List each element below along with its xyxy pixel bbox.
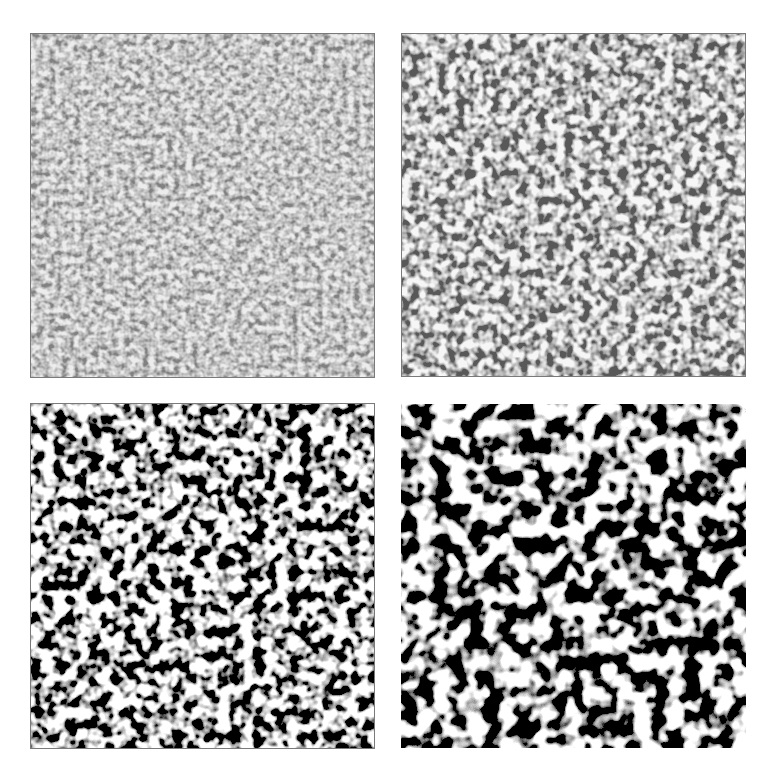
panel-top-right xyxy=(401,33,746,377)
labyrinth-pattern-fine-medium xyxy=(402,34,745,376)
panel-top-left xyxy=(30,33,375,378)
panel-bottom-right xyxy=(401,404,746,748)
labyrinth-pattern-medium xyxy=(31,404,374,748)
labyrinth-pattern-coarse xyxy=(401,404,746,748)
panel-bottom-left xyxy=(30,403,375,749)
labyrinth-pattern-fine xyxy=(31,34,374,377)
